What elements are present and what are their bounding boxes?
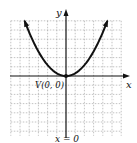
x-axis-arrow-icon [123, 74, 130, 79]
vertex-label: V(0, 0) [35, 80, 64, 90]
symmetry-label: x = 0 [55, 134, 79, 143]
y-axis-arrow-icon [64, 9, 69, 16]
curve-arrow-right-icon [103, 19, 108, 27]
x-axis-label: x [126, 79, 132, 90]
vertex-point [64, 74, 68, 78]
parabola-graph: y x V(0, 0) x = 0 [0, 0, 137, 143]
y-axis-label: y [55, 7, 62, 18]
